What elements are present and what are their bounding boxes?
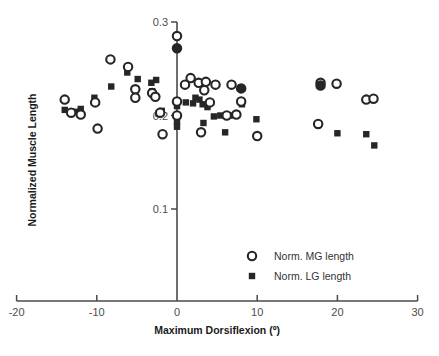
data-point-mg	[67, 108, 75, 116]
x-axis-title: Maximum Dorsiflexion (º)	[154, 324, 280, 336]
data-point-mg	[61, 95, 69, 103]
data-point-mg	[314, 120, 322, 128]
x-tick-label: 0	[174, 306, 180, 318]
data-point-mg	[131, 85, 139, 93]
data-point-mg	[156, 108, 164, 116]
data-point-mg	[106, 55, 114, 63]
data-point-mg	[158, 130, 166, 138]
data-point-lg	[253, 116, 259, 122]
data-point-lg	[174, 124, 180, 130]
data-point-mg	[93, 124, 101, 132]
data-point-mg	[232, 110, 240, 118]
y-tick-label: 0.3	[153, 16, 168, 28]
data-point-lg	[222, 129, 228, 135]
legend-marker-mg	[248, 252, 256, 260]
data-point-lg	[153, 77, 159, 83]
x-tick-label: -20	[9, 306, 25, 318]
data-point-mg	[237, 97, 245, 105]
x-tick-label: 10	[251, 306, 263, 318]
data-point-lg	[183, 99, 189, 105]
legend-marker-lg	[249, 273, 255, 279]
data-point-mg	[77, 110, 85, 118]
data-point-lg	[135, 76, 141, 82]
data-point-lg	[108, 83, 114, 89]
chart-figure: -20-1001020300.10.20.3 Maximum Dorsiflex…	[0, 0, 439, 356]
x-tick-label: 30	[411, 306, 423, 318]
data-point-lg	[371, 142, 377, 148]
data-point-mg	[181, 80, 189, 88]
data-point-mg	[202, 78, 210, 86]
data-point-mg	[369, 94, 377, 102]
data-point-mg	[173, 32, 181, 40]
data-point-mg	[227, 80, 235, 88]
data-point-lg	[363, 131, 369, 137]
legend-label: Norm. LG length	[274, 270, 351, 282]
data-point-mg	[223, 111, 231, 119]
data-point-lg	[190, 100, 196, 106]
data-point-lg	[200, 120, 206, 126]
data-point-overlap	[316, 81, 324, 89]
data-point-mg	[173, 97, 181, 105]
y-axis-title: Normalized Muscle Length	[26, 93, 38, 226]
data-point-mg	[332, 80, 340, 88]
scatter-plot-svg: -20-1001020300.10.20.3 Maximum Dorsiflex…	[0, 0, 439, 356]
data-point-lg	[211, 113, 217, 119]
legend: Norm. MG lengthNorm. LG length	[248, 250, 354, 282]
data-points-layer	[61, 32, 378, 149]
data-point-mg	[206, 98, 214, 106]
data-point-mg	[211, 80, 219, 88]
x-tick-label: 20	[331, 306, 343, 318]
data-point-mg	[253, 132, 261, 140]
data-point-overlap	[237, 84, 245, 92]
data-point-mg	[131, 94, 139, 102]
data-point-mg	[91, 98, 99, 106]
legend-label: Norm. MG length	[274, 250, 354, 262]
data-point-mg	[151, 93, 159, 101]
data-point-mg	[173, 111, 181, 119]
data-point-overlap	[173, 44, 181, 52]
data-point-mg	[124, 63, 132, 71]
data-point-mg	[200, 86, 208, 94]
x-tick-label: -10	[89, 306, 105, 318]
data-point-lg	[334, 130, 340, 136]
data-point-mg	[197, 128, 205, 136]
y-tick-label: 0.1	[153, 203, 168, 215]
axes-layer: -20-1001020300.10.20.3	[9, 16, 424, 318]
